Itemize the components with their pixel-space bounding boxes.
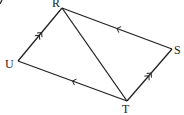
vertex-label-R: R <box>52 0 60 10</box>
parallelogram-diagram: R S T U <box>0 0 184 115</box>
vertex-label-S: S <box>174 43 181 57</box>
diagonal-RT <box>62 8 127 101</box>
cropped-mark <box>0 0 2 4</box>
edge-UR <box>18 8 62 61</box>
vertex-label-U: U <box>5 57 14 71</box>
edge-ST <box>127 49 172 101</box>
vertex-label-T: T <box>122 102 130 115</box>
